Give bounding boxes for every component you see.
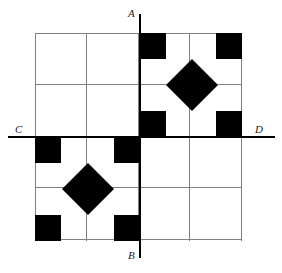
square-top-center-left [140,33,166,59]
square-bottom-left [35,215,61,241]
geometry-figure: A B C D [0,0,282,273]
axis-label-b: B [128,250,135,261]
figure-canvas [0,0,282,273]
square-center-left [114,137,140,163]
square-mid-center [140,111,166,137]
square-top-right [216,33,242,59]
square-bottom-center [114,215,140,241]
axis-label-c: C [15,124,22,135]
square-mid-right [216,111,242,137]
axis-label-d: D [255,124,263,135]
axis-label-a: A [128,8,135,19]
square-left-upper [35,137,61,163]
